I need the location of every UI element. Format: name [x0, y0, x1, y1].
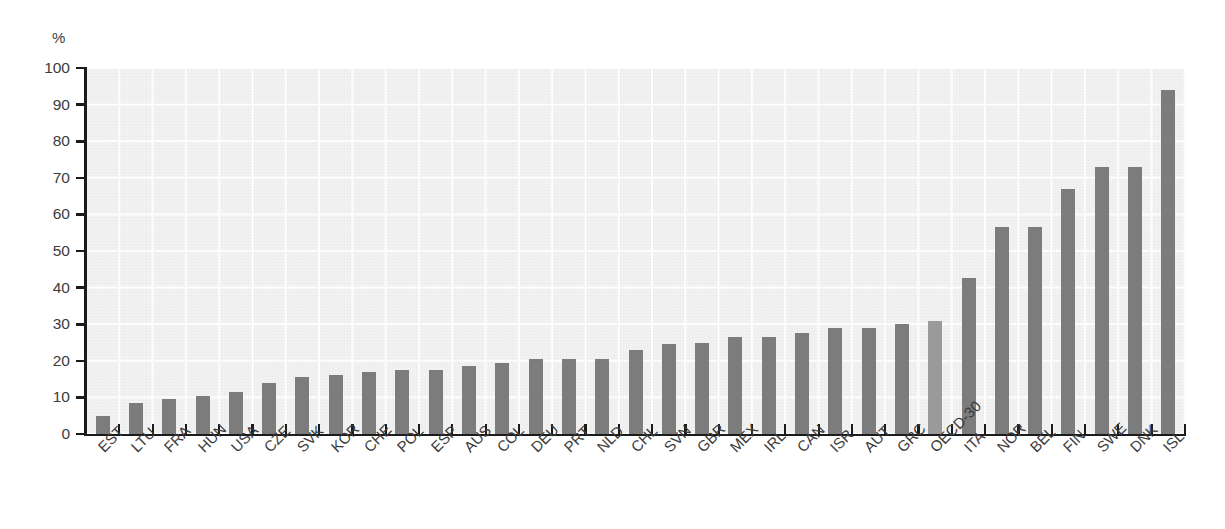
y-axis-tick-label: 30 — [24, 316, 70, 332]
y-axis-tick-label: 10 — [24, 389, 70, 405]
x-axis-tick — [784, 424, 786, 434]
bar-can — [795, 333, 809, 434]
bar-prt — [562, 359, 576, 434]
y-axis-tick-label: 70 — [24, 170, 70, 186]
y-axis-tick — [76, 177, 85, 180]
y-axis-tick — [76, 250, 85, 253]
bar-chart: % 0102030405060708090100 ESTLTUFRAHUNUSA… — [0, 0, 1225, 529]
x-axis-tick — [85, 424, 87, 434]
bar-nor — [995, 227, 1009, 434]
bar-fin — [1061, 189, 1075, 434]
y-axis-tick-label: 50 — [24, 243, 70, 259]
bar-mex — [728, 337, 742, 434]
bar-svn — [662, 344, 676, 434]
y-axis-tick-label: 80 — [24, 133, 70, 149]
y-axis-tick-label: 40 — [24, 280, 70, 296]
bar-gbr — [695, 343, 709, 435]
y-axis-tick — [76, 360, 85, 363]
bar-irl — [762, 337, 776, 434]
y-axis-tick — [76, 67, 85, 70]
y-axis-tick — [76, 396, 85, 399]
y-axis-tick — [76, 286, 85, 289]
bar-usa — [229, 392, 243, 434]
bar-isl — [1161, 90, 1175, 434]
y-axis-tick-label: 60 — [24, 206, 70, 222]
bar-aut — [862, 328, 876, 434]
bar-deu — [529, 359, 543, 434]
y-axis-tick — [76, 140, 85, 143]
y-axis-tick — [76, 213, 85, 216]
bar-bel — [1028, 227, 1042, 434]
bar-grc — [895, 324, 909, 434]
bar-esp — [429, 370, 443, 434]
y-axis-tick — [76, 323, 85, 326]
y-axis-tick-label: 20 — [24, 353, 70, 369]
bar-chl — [629, 350, 643, 434]
bar-oecd-30 — [928, 321, 942, 434]
y-axis-tick — [76, 433, 85, 436]
x-axis-tick — [1184, 424, 1186, 434]
y-axis-tick-label: 100 — [24, 60, 70, 76]
bar-che — [362, 372, 376, 434]
bar-svk — [295, 377, 309, 434]
y-axis-tick — [76, 103, 85, 106]
bar-col — [495, 363, 509, 434]
bar-swe — [1095, 167, 1109, 434]
y-axis-labels: 0102030405060708090100 — [17, 0, 70, 529]
y-axis-tick-label: 90 — [24, 97, 70, 113]
y-axis-tick-label: 0 — [24, 426, 70, 442]
bar-cze — [262, 383, 276, 434]
bar-dnk — [1128, 167, 1142, 434]
bar-aus — [462, 366, 476, 434]
bar-isr — [828, 328, 842, 434]
bar-kor — [329, 375, 343, 434]
x-axis-tick — [1084, 424, 1086, 434]
bar-pol — [395, 370, 409, 434]
bar-nld — [595, 359, 609, 434]
x-axis-tick — [984, 424, 986, 434]
